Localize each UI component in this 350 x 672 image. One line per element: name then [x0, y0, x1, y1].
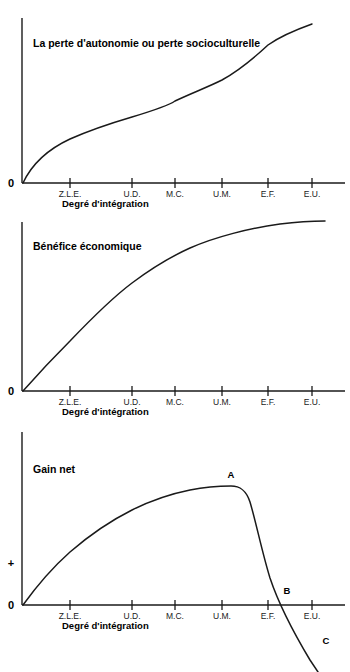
chart-1-tick-label-3: U.M.	[213, 189, 231, 199]
chart-3-point-label-c: C	[323, 635, 330, 646]
chart-3-plus-label: +	[8, 557, 14, 569]
chart-3-point-label-a: A	[228, 469, 235, 480]
chart-1-tick-label-4: E.F.	[261, 189, 276, 199]
chart-3-tick-label-3: U.M.	[213, 611, 231, 621]
chart-3-x-axis-label: Degré d'intégration	[62, 620, 149, 631]
chart-1-tick-label-2: M.C.	[166, 189, 184, 199]
chart-2-origin-label: 0	[8, 385, 14, 397]
chart-3-tick-label-4: E.F.	[261, 611, 276, 621]
chart-1-x-axis-label: Degré d'intégration	[62, 198, 149, 209]
chart-3-origin-label: 0	[8, 599, 14, 611]
chart-gain-net: Z.L.E. U.D. M.C. U.M. E.F. E.U. 0 + Degr…	[0, 430, 350, 672]
chart-3-title: Gain net	[33, 463, 76, 475]
chart-2-tick-label-4: E.F.	[261, 397, 276, 407]
chart-2-tick-label-5: E.U.	[304, 397, 321, 407]
chart-2-tick-label-3: U.M.	[213, 397, 231, 407]
chart-2-x-axis-label: Degré d'intégration	[62, 406, 149, 417]
chart-3-canvas: Z.L.E. U.D. M.C. U.M. E.F. E.U. 0 + Degr…	[0, 430, 350, 672]
chart-1-title: La perte d'autonomie ou perte sociocultu…	[33, 37, 260, 49]
chart-3-tick-label-5: E.U.	[304, 611, 321, 621]
chart-1-origin-label: 0	[8, 177, 14, 189]
chart-3-point-label-b: B	[284, 585, 291, 596]
chart-benefice-economique: Z.L.E. U.D. M.C. U.M. E.F. E.U. 0 Degré …	[0, 214, 350, 430]
chart-1-tick-label-5: E.U.	[304, 189, 321, 199]
chart-2-title: Bénéfice économique	[33, 240, 142, 252]
chart-2-canvas: Z.L.E. U.D. M.C. U.M. E.F. E.U. 0 Degré …	[0, 214, 350, 430]
chart-2-tick-label-2: M.C.	[166, 397, 184, 407]
chart-3-curve	[23, 486, 318, 672]
chart-1-canvas: Z.L.E. U.D. M.C. U.M. E.F. E.U. 0 Degré …	[0, 0, 350, 214]
chart-3-tick-label-2: M.C.	[166, 611, 184, 621]
chart-perte-autonomie: Z.L.E. U.D. M.C. U.M. E.F. E.U. 0 Degré …	[0, 0, 350, 214]
